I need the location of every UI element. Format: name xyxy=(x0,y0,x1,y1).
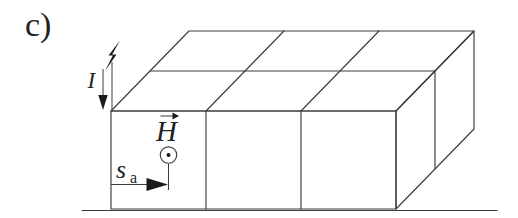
circled-dot-center xyxy=(167,153,171,157)
physics-figure: I H s a c) xyxy=(0,0,518,218)
path-right-arrow-icon xyxy=(147,178,169,191)
current-indicator: I xyxy=(87,41,121,111)
path-indicator: s a xyxy=(111,155,168,191)
part-label: c) xyxy=(25,6,51,44)
block-front-face xyxy=(111,111,396,209)
magnetic-field-around-conductor-diagram: I H s a c) xyxy=(0,0,518,218)
path-label-subscript: a xyxy=(130,169,137,186)
field-label: H xyxy=(155,115,179,147)
path-label-base: s xyxy=(116,155,126,184)
current-label: I xyxy=(87,68,97,93)
field-indicator: H xyxy=(155,113,179,190)
path-label: s a xyxy=(116,155,137,186)
current-down-arrow-icon xyxy=(98,95,107,110)
